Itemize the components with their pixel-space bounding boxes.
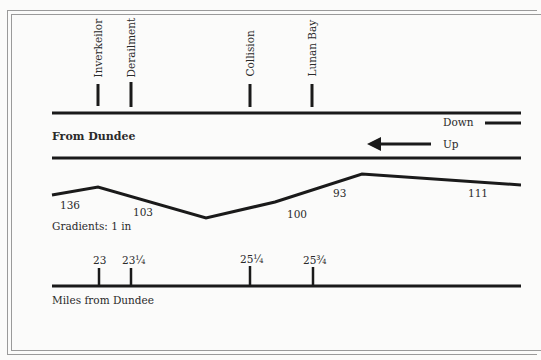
gradient-value: 100	[287, 209, 307, 220]
gradient-value: 136	[60, 200, 80, 211]
milepost-label: 23	[93, 255, 106, 266]
station-label-lunan-bay: Lunan Bay	[307, 20, 318, 77]
up-arrow-icon	[367, 137, 431, 151]
milepost-ticks	[99, 266, 313, 286]
down-direction-label: Down	[443, 117, 474, 128]
up-direction-label: Up	[443, 139, 459, 150]
milepost-label: 25¾	[303, 255, 327, 266]
station-ticks	[98, 82, 312, 107]
gradients-caption: Gradients: 1 in	[52, 221, 131, 232]
station-label-derailment: Derailment	[126, 18, 137, 78]
miles-caption: Miles from Dundee	[52, 295, 154, 306]
milepost-label: 23¼	[122, 255, 146, 266]
track-label: From Dundee	[52, 131, 135, 142]
gradient-value: 93	[333, 188, 346, 199]
gradient-value: 111	[468, 188, 488, 199]
station-label-collision: Collision	[245, 30, 256, 76]
gradient-value: 103	[133, 207, 153, 218]
milepost-label: 25¼	[240, 254, 264, 265]
station-label-inverkeilor: Inverkeilor	[93, 19, 104, 78]
